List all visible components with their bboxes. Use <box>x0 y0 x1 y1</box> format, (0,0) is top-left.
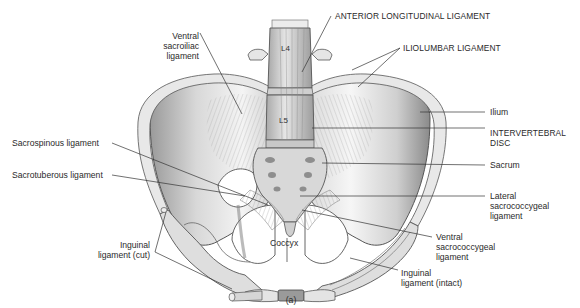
label-line: ligament <box>490 211 549 221</box>
label-line: ligament (intact) <box>401 278 462 288</box>
label-coccyx: Coccyx <box>270 238 298 248</box>
label-line: sacrococcygeal <box>436 242 495 252</box>
label-sacrospinous-ligament: Sacrospinous ligament <box>12 138 99 148</box>
label-ilium: Ilium <box>490 107 508 117</box>
label-line: ligament <box>436 252 495 262</box>
vertebra-l4-label: L4 <box>281 44 290 53</box>
label-sacrotuberous-ligament: Sacrotuberous ligament <box>12 170 103 180</box>
label-line: Inguinal <box>401 268 462 278</box>
label-line: INTERVERTEBRAL <box>490 128 566 138</box>
label-line: Inguinal <box>80 240 150 250</box>
label-sacrum: Sacrum <box>490 160 520 170</box>
label-inguinal-ligament-intact: Inguinal ligament (intact) <box>401 268 462 288</box>
label-lateral-sacrococcygeal-ligament: Lateral sacrococcygeal ligament <box>490 191 549 221</box>
label-ventral-sacrococcygeal-ligament: Ventral sacrococcygeal ligament <box>436 232 495 262</box>
label-line: ligament <box>145 51 199 61</box>
label-ventral-sacroiliac-ligament: Ventral sacroiliac ligament <box>145 31 199 61</box>
label-line: Ventral <box>145 31 199 41</box>
vertebra-l5-label: L5 <box>279 116 288 125</box>
label-inguinal-ligament-cut: Inguinal ligament (cut) <box>80 240 150 260</box>
label-anterior-longitudinal-ligament: ANTERIOR LONGITUDINAL LIGAMENT <box>335 11 490 21</box>
label-intervertebral-disc: INTERVERTEBRAL DISC <box>490 128 566 148</box>
label-line: sacroiliac <box>145 41 199 51</box>
label-line: ligament (cut) <box>80 250 150 260</box>
label-iliolumbar-ligament: ILIOLUMBAR LIGAMENT <box>403 43 501 53</box>
label-line: Ventral <box>436 232 495 242</box>
panel-label: (a) <box>280 295 302 305</box>
label-line: sacrococcygeal <box>490 201 549 211</box>
label-line: DISC <box>490 138 566 148</box>
label-line: Lateral <box>490 191 549 201</box>
